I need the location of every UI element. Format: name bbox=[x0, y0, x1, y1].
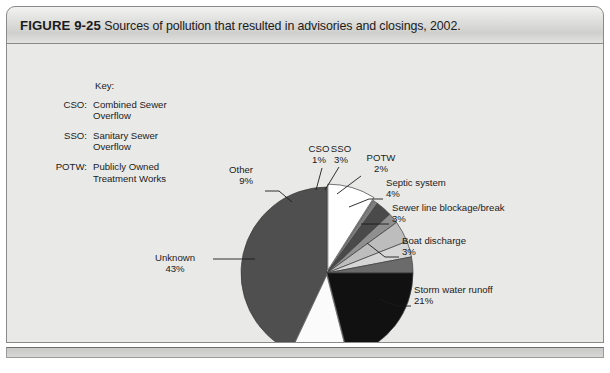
pie-label-other-text: Other bbox=[229, 164, 253, 175]
pie-label-unknown-text: Unknown bbox=[155, 252, 195, 263]
figure-caption-text: Sources of pollution that resulted in ad… bbox=[104, 19, 460, 33]
pie-label-sewer-line-blockage-break-pct: 3% bbox=[392, 213, 562, 224]
figure-body: Key: CSO: Combined Sewer Overflow SSO: S… bbox=[6, 43, 604, 343]
pie-label-sewer-line-blockage-break-text: Sewer line blockage/break bbox=[392, 202, 505, 213]
pie-label-boat-discharge-text: Boat discharge bbox=[402, 235, 466, 246]
pie-label-potw-pct: 2% bbox=[357, 163, 405, 174]
pie-label-unknown-pct: 43% bbox=[141, 263, 209, 274]
pie-label-potw: POTW 2% bbox=[357, 152, 405, 174]
pie-label-septic-system-text: Septic system bbox=[386, 177, 446, 188]
pie-label-storm-water-runoff-text: Storm water runoff bbox=[414, 284, 493, 295]
leader-line-cso bbox=[316, 168, 322, 190]
pie-label-septic-system: Septic system 4% bbox=[386, 177, 516, 199]
figure-bottom-strip bbox=[6, 347, 604, 358]
pie-label-unknown: Unknown 43% bbox=[141, 252, 209, 274]
pie-label-boat-discharge: Boat discharge 3% bbox=[402, 235, 522, 257]
pie-label-storm-water-runoff: Storm water runoff 21% bbox=[414, 284, 554, 306]
pie-label-sso-text: SSO bbox=[331, 143, 351, 154]
pie-slice-group bbox=[241, 184, 413, 343]
pie-label-boat-discharge-pct: 3% bbox=[402, 246, 522, 257]
pie-label-sewer-line-blockage-break: Sewer line blockage/break 3% bbox=[392, 202, 562, 224]
pie-label-other-pct: 9% bbox=[135, 175, 253, 186]
pie-label-other: Other 9% bbox=[135, 164, 253, 186]
figure-caption: FIGURE 9-25 Sources of pollution that re… bbox=[7, 18, 461, 33]
pie-chart: Other 9% CSO 1% SSO 3% POTW 2% Septic sy… bbox=[7, 44, 604, 343]
pie-label-potw-text: POTW bbox=[367, 152, 396, 163]
pie-label-storm-water-runoff-pct: 21% bbox=[414, 295, 554, 306]
figure-number: FIGURE 9-25 bbox=[20, 18, 101, 33]
figure-header: FIGURE 9-25 Sources of pollution that re… bbox=[6, 6, 604, 44]
figure-panel: FIGURE 9-25 Sources of pollution that re… bbox=[6, 6, 604, 358]
pie-label-septic-system-pct: 4% bbox=[386, 188, 516, 199]
